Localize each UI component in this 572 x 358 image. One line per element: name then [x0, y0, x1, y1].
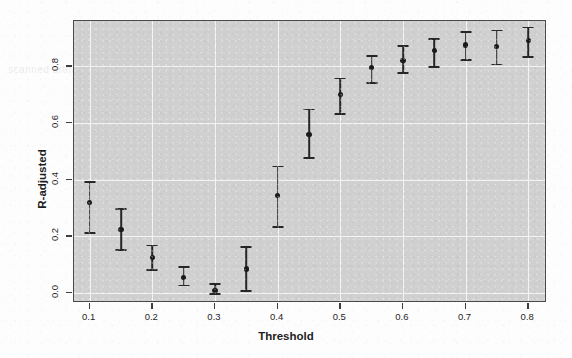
chart-screenshot: scanned artifact bleed through reverse p…: [0, 0, 572, 358]
error-bar-cap-upper: [491, 30, 502, 32]
error-bar-cap-upper: [209, 283, 220, 285]
error-bar-cap-lower: [397, 72, 408, 74]
gridline-vertical: [215, 21, 216, 301]
y-axis-tick-label: 0.2: [44, 229, 64, 241]
x-axis-tick-label: 0.5: [319, 311, 359, 322]
error-bar-cap-upper: [115, 208, 126, 210]
x-axis-tick-label: 0.2: [131, 311, 171, 322]
plot-noise-overlay: [74, 21, 545, 301]
error-bar-cap-lower: [460, 59, 471, 61]
data-point-marker: [150, 255, 155, 260]
x-axis-tick-label: 0.3: [194, 311, 234, 322]
data-point-marker: [87, 200, 92, 205]
plot-area: [73, 20, 546, 302]
x-axis-tick: [277, 303, 278, 309]
data-point-marker: [306, 132, 311, 137]
y-axis-tick-label-text: 0.6: [49, 112, 60, 132]
x-axis-tick-label: 0.4: [257, 311, 297, 322]
data-point-marker: [244, 266, 249, 271]
error-bar-cap-lower: [335, 113, 346, 115]
y-axis-tick: [66, 65, 72, 66]
x-axis-tick: [339, 303, 340, 309]
gridline-horizontal: [74, 66, 545, 67]
error-bar-cap-upper: [523, 27, 534, 29]
y-axis-tick: [66, 179, 72, 180]
error-bar-cap-lower: [147, 269, 158, 271]
gridline-horizontal: [74, 180, 545, 181]
x-axis-tick-label: 0.8: [507, 311, 547, 322]
data-point-marker: [275, 193, 280, 198]
x-axis-tick: [465, 303, 466, 309]
gridline-vertical: [90, 21, 91, 301]
y-axis-tick: [66, 122, 72, 123]
error-bar-cap-upper: [303, 109, 314, 111]
y-axis-tick-label-text: 0.0: [49, 282, 60, 302]
data-point-marker: [118, 227, 123, 232]
error-bar-cap-upper: [460, 31, 471, 33]
y-axis-tick-label-text: 0.4: [49, 168, 60, 188]
error-bar-cap-lower: [241, 290, 252, 292]
data-point-marker: [212, 288, 217, 293]
x-axis-tick: [214, 303, 215, 309]
error-bar-cap-lower: [178, 285, 189, 287]
error-bar-cap-lower: [115, 249, 126, 251]
data-point-marker: [494, 44, 499, 49]
x-axis-tick: [527, 303, 528, 309]
error-bar-cap-lower: [272, 226, 283, 228]
y-axis-tick-label: 0.6: [44, 116, 64, 128]
error-bar-cap-lower: [491, 64, 502, 66]
error-bar-cap-lower: [366, 82, 377, 84]
data-point-marker: [369, 65, 374, 70]
error-bar-cap-upper: [335, 78, 346, 80]
error-bar-cap-lower: [84, 232, 95, 234]
y-axis-tick-label-text: 0.2: [49, 225, 60, 245]
y-axis-title: R-adjusted: [36, 149, 48, 208]
x-axis-tick: [89, 303, 90, 309]
data-point-marker: [463, 42, 468, 47]
data-point-marker: [432, 48, 437, 53]
error-bar-cap-lower: [429, 66, 440, 68]
x-axis-tick-label: 0.7: [445, 311, 485, 322]
gridline-vertical: [278, 21, 279, 301]
y-axis-tick-label-text: 0.8: [49, 55, 60, 75]
data-point-marker: [181, 275, 186, 280]
x-axis-tick: [402, 303, 403, 309]
data-point-marker: [338, 92, 343, 97]
error-bar-cap-upper: [147, 245, 158, 247]
error-bar-cap-upper: [366, 55, 377, 57]
error-bar-cap-lower: [303, 157, 314, 159]
x-axis-tick: [151, 303, 152, 309]
error-bar-cap-upper: [272, 166, 283, 168]
y-axis-tick-label: 0.8: [44, 59, 64, 71]
x-axis-title: Threshold: [0, 330, 572, 342]
y-axis-tick: [66, 292, 72, 293]
x-axis-tick-label: 0.6: [382, 311, 422, 322]
error-bar-cap-upper: [429, 38, 440, 40]
x-axis-tick-label: 0.1: [69, 311, 109, 322]
gridline-vertical: [466, 21, 467, 301]
error-bar-cap-lower: [209, 293, 220, 295]
error-bar-cap-upper: [84, 181, 95, 183]
y-axis-tick-label: 0.0: [44, 286, 64, 298]
error-bar-cap-lower: [523, 56, 534, 58]
gridline-vertical: [340, 21, 341, 301]
data-point-marker: [400, 58, 405, 63]
error-bar-cap-upper: [241, 246, 252, 248]
data-point-marker: [526, 38, 531, 43]
gridline-horizontal: [74, 236, 545, 237]
error-bar-cap-upper: [397, 45, 408, 47]
gridline-vertical: [528, 21, 529, 301]
error-bar-cap-upper: [178, 266, 189, 268]
error-bar-stem: [89, 181, 91, 232]
y-axis-tick: [66, 235, 72, 236]
gridline-horizontal: [74, 293, 545, 294]
